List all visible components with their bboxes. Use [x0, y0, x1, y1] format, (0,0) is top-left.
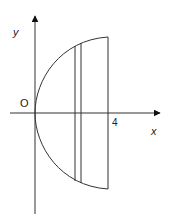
y-axis-label: y — [12, 26, 20, 38]
x-tick-label-4: 4 — [112, 117, 118, 128]
origin-label: O — [20, 97, 29, 109]
x-axis-label: x — [150, 125, 157, 137]
diagram-canvas: y x O 4 — [0, 0, 170, 220]
